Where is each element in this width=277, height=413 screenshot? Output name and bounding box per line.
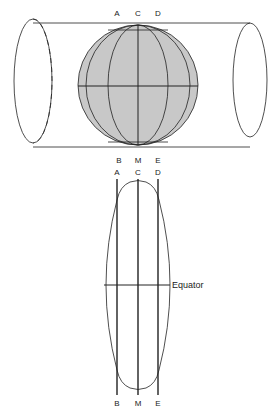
label-a: A: [114, 9, 120, 18]
label-b: B: [116, 156, 121, 165]
label-b-bottom: B: [114, 399, 119, 408]
label-e-bottom: E: [155, 399, 160, 408]
equator-label: Equator: [172, 280, 204, 290]
label-c: C: [135, 9, 141, 18]
cylinder-left-hidden-edge: [33, 19, 52, 143]
diagram-canvas: A C D B M E A C D B M E Equator: [0, 0, 277, 413]
cylinder-right-end: [233, 23, 267, 137]
label-m: M: [135, 156, 142, 165]
label-d-bottom: D: [155, 168, 161, 177]
projected-gore: [104, 179, 170, 395]
label-e: E: [155, 156, 160, 165]
label-a-bottom: A: [114, 168, 120, 177]
globe: [78, 25, 198, 145]
label-m-bottom: M: [135, 399, 142, 408]
label-c-bottom: C: [135, 168, 141, 177]
label-d: D: [155, 9, 161, 18]
